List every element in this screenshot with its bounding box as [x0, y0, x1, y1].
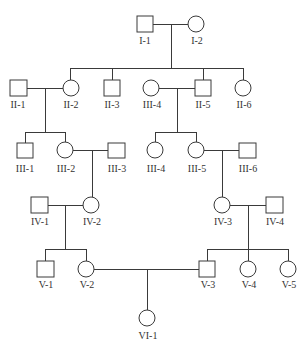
label-V-5: V-5 [282, 279, 297, 290]
label-III-2: III-2 [57, 163, 75, 174]
female-symbol-II-2 [63, 80, 79, 96]
label-II-3: II-3 [105, 99, 120, 110]
label-III-4: III-4 [147, 163, 165, 174]
label-IV-3: IV-3 [214, 216, 232, 227]
label-V-2: V-2 [80, 279, 95, 290]
pedigree-svg: I-1 I-2 II-1 II-2 II-3 III-4 II-5 II-6 I… [0, 0, 308, 347]
female-symbol-III-5 [188, 142, 204, 158]
female-symbol-II-6 [235, 80, 251, 96]
label-II-5: II-5 [196, 99, 211, 110]
label-III-5: III-5 [188, 163, 206, 174]
pedigree-diagram: I-1 I-2 II-1 II-2 II-3 III-4 II-5 II-6 I… [0, 0, 308, 347]
female-symbol-III-2 [57, 142, 73, 158]
label-III-1: III-1 [16, 163, 34, 174]
label-IV-1: IV-1 [31, 216, 49, 227]
male-symbol-II-3 [104, 80, 120, 96]
male-symbol-II-1 [10, 80, 27, 96]
label-VI-1: VI-1 [139, 330, 158, 341]
female-symbol-IV-3 [214, 197, 230, 213]
female-symbol-V-5 [280, 261, 296, 277]
label-V-4: V-4 [242, 279, 257, 290]
label-IV-2: IV-2 [83, 216, 101, 227]
label-V-1: V-1 [39, 279, 54, 290]
label-III-6: III-6 [239, 163, 257, 174]
male-symbol-IV-4 [266, 197, 283, 213]
female-symbol-V-4 [240, 261, 256, 277]
label-III-3: III-3 [108, 163, 126, 174]
female-symbol-V-2 [78, 261, 94, 277]
label-II-6: II-6 [237, 99, 252, 110]
label-I-1: I-1 [139, 35, 151, 46]
female-symbol-II-4 [143, 80, 159, 96]
female-symbol-IV-2 [83, 197, 99, 213]
male-symbol-III-6 [239, 143, 256, 158]
label-II-1: II-1 [11, 99, 26, 110]
female-symbol-VI-1 [139, 310, 155, 326]
male-symbol-III-3 [108, 143, 125, 158]
label-II-4: III-4 [143, 99, 161, 110]
male-symbol-IV-1 [31, 197, 48, 213]
male-symbol-II-5 [195, 80, 211, 96]
label-II-2: II-2 [64, 99, 79, 110]
male-symbol-I-1 [137, 16, 153, 32]
male-symbol-V-3 [199, 261, 215, 277]
label-I-2: I-2 [191, 35, 203, 46]
male-symbol-III-1 [17, 143, 33, 158]
female-symbol-III-4 [147, 142, 163, 158]
label-IV-4: IV-4 [266, 216, 284, 227]
female-symbol-I-2 [188, 16, 204, 32]
label-V-3: V-3 [201, 279, 216, 290]
male-symbol-V-1 [37, 261, 54, 277]
